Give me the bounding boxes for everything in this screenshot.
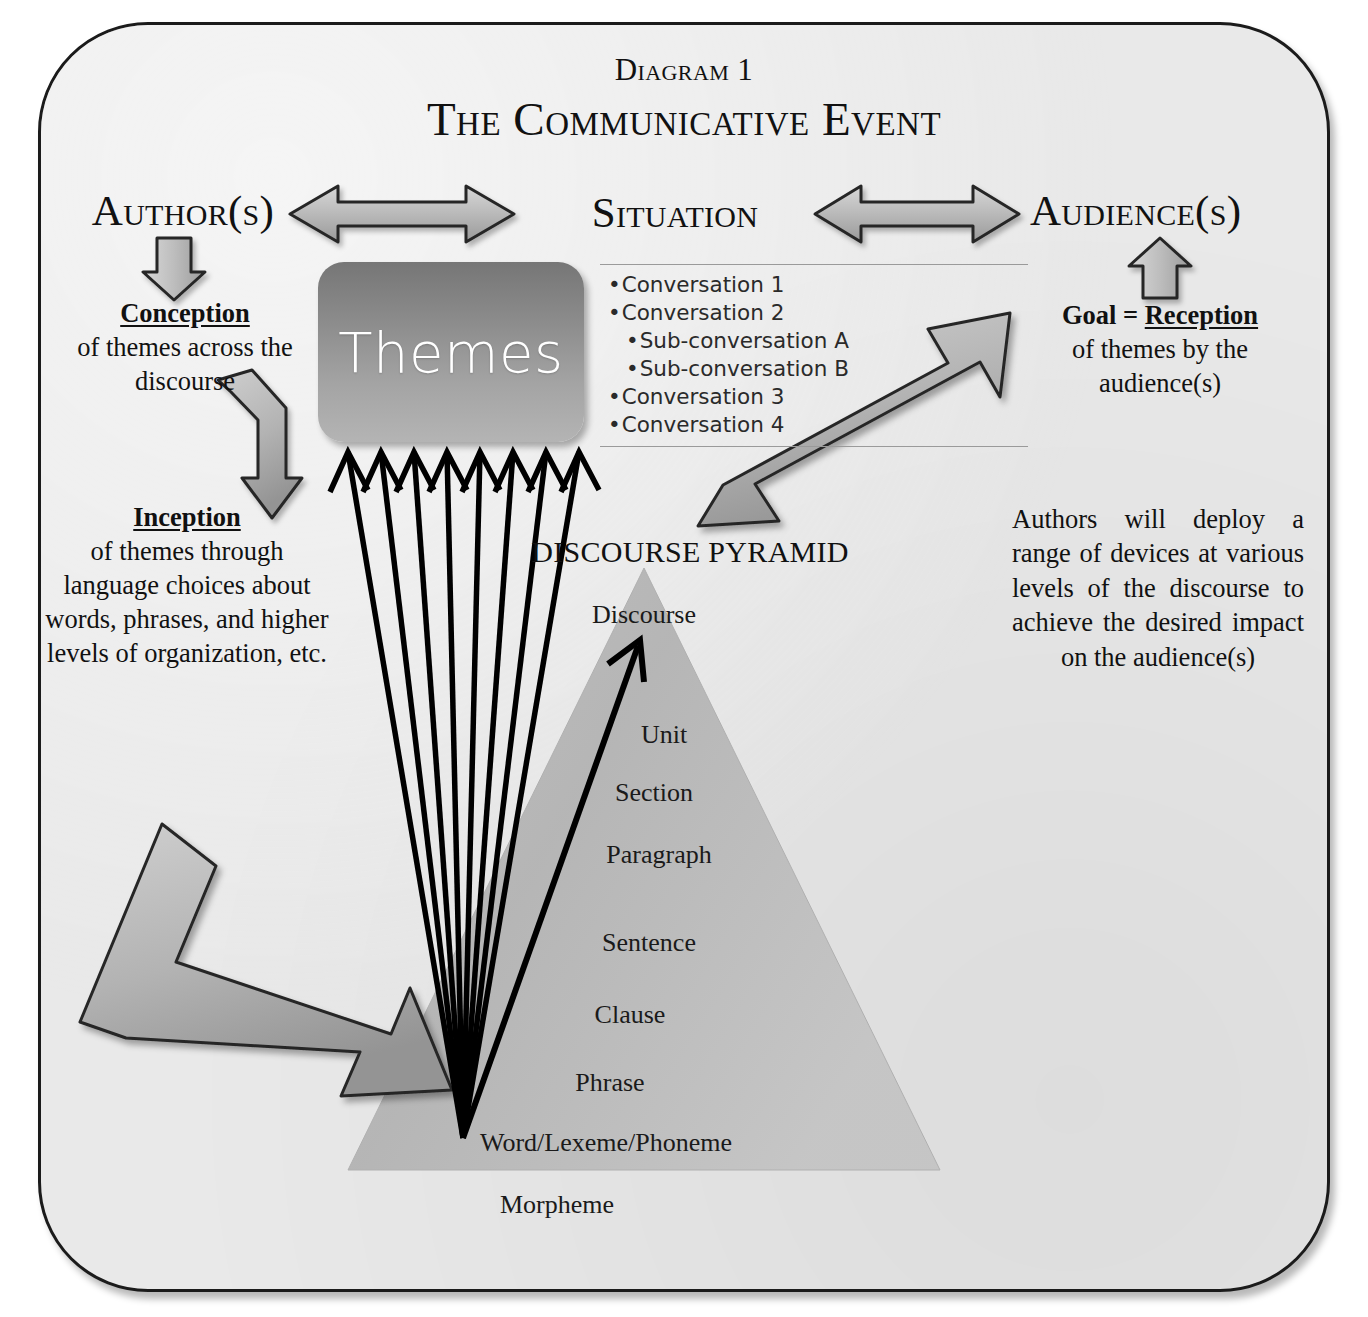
- bullet-icon: •: [626, 328, 640, 353]
- double-headed-arrow-icon-right: [815, 186, 1019, 242]
- goal-body: of themes by the audience(s): [1072, 334, 1248, 398]
- conception-keyword: Conception: [120, 298, 250, 328]
- column-heading-audience: Audience(s): [1030, 186, 1300, 235]
- column-heading-authors: Author(s): [68, 186, 298, 235]
- list-item: •Conversation 3: [600, 383, 1028, 411]
- up-arrow-icon-audience: [1129, 238, 1191, 298]
- reception-keyword: Reception: [1145, 300, 1258, 330]
- diagram-canvas: Diagram 1 The Communicative Event Author…: [0, 0, 1368, 1317]
- bullet-icon: •: [608, 300, 622, 325]
- list-item-label: Sub-conversation A: [640, 328, 849, 353]
- inception-body: of themes through language choices about…: [45, 536, 328, 668]
- list-item-label: Conversation 1: [622, 272, 785, 297]
- pyramid-level-word: Word/Lexeme/Phoneme: [480, 1128, 900, 1158]
- pyramid-title: DISCOURSE PYRAMID: [480, 535, 900, 569]
- pyramid-level-discourse: Discourse: [534, 600, 754, 630]
- bullet-icon: •: [608, 272, 622, 297]
- page-title: The Communicative Event: [0, 92, 1368, 146]
- pyramid-level-sentence: Sentence: [534, 928, 764, 958]
- list-item-label: Conversation 2: [622, 300, 785, 325]
- situation-conversation-list: •Conversation 1 •Conversation 2 •Sub-con…: [600, 264, 1028, 447]
- goal-prefix: Goal =: [1062, 300, 1145, 330]
- pyramid-level-phrase: Phrase: [500, 1068, 720, 1098]
- themes-box: Themes: [318, 262, 584, 442]
- bullet-icon: •: [608, 384, 622, 409]
- theme-convergence-arrowheads: [330, 452, 599, 492]
- themes-box-label: Themes: [338, 320, 563, 385]
- list-item: •Conversation 1: [600, 271, 1028, 299]
- inception-keyword: Inception: [133, 502, 241, 532]
- figure-number: Diagram 1: [0, 52, 1368, 88]
- list-item-label: Conversation 4: [622, 412, 785, 437]
- list-item-label: Conversation 3: [622, 384, 785, 409]
- bullet-icon: •: [608, 412, 622, 437]
- column-heading-situation: Situation: [540, 188, 810, 237]
- pyramid-level-morpheme: Morpheme: [500, 1190, 800, 1220]
- list-item: •Sub-conversation A: [600, 327, 1028, 355]
- inception-block: Inception of themes through language cho…: [42, 500, 332, 670]
- list-item: •Conversation 4: [600, 411, 1028, 439]
- goal-block: Goal = Reception of themes by the audien…: [1010, 298, 1310, 400]
- conception-body: of themes across the discourse: [77, 332, 293, 396]
- bent-arrow-icon-inception: [80, 824, 452, 1096]
- authors-note-paragraph: Authors will deploy a range of devices a…: [1012, 502, 1304, 674]
- conception-block: Conception of themes across the discours…: [60, 296, 310, 398]
- down-arrow-icon-author: [143, 238, 205, 300]
- list-item: •Conversation 2: [600, 299, 1028, 327]
- pyramid-level-paragraph: Paragraph: [544, 840, 774, 870]
- list-item-label: Sub-conversation B: [640, 356, 849, 381]
- double-headed-arrow-icon-left: [290, 186, 514, 242]
- pyramid-level-section: Section: [554, 778, 754, 808]
- list-item: •Sub-conversation B: [600, 355, 1028, 383]
- bullet-icon: •: [626, 356, 640, 381]
- pyramid-level-unit: Unit: [574, 720, 754, 750]
- pyramid-level-clause: Clause: [520, 1000, 740, 1030]
